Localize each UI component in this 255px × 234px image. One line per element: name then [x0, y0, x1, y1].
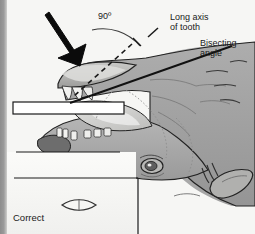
film-plate — [13, 102, 124, 114]
diagram-illustration — [0, 0, 255, 234]
xray-beam-arrow — [45, 12, 86, 66]
right-angle-arc — [92, 29, 141, 46]
label-bisecting-angle: Bisecting angle — [200, 38, 237, 58]
label-90-degrees: 90º — [98, 11, 111, 21]
label-correct: Correct — [13, 213, 44, 224]
label-long-axis-of-tooth: Long axis of tooth — [170, 12, 209, 32]
figure-container: 90º Long axis of tooth Bisecting angle C… — [0, 0, 255, 234]
